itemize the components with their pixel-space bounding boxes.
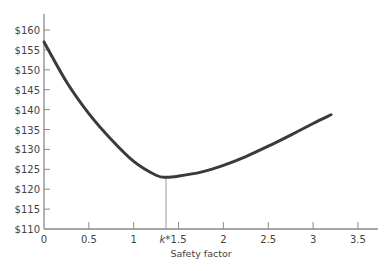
x-axis-title: Safety factor: [170, 248, 231, 259]
y-tick-label: $160: [15, 25, 40, 36]
x-tick-label: 2.5: [260, 234, 276, 245]
x-tick-label: 1: [131, 234, 137, 245]
y-tick-label: $150: [15, 65, 40, 76]
y-tick-label: $125: [15, 164, 40, 175]
y-tick-label: $135: [15, 125, 40, 136]
x-tick-label: 2: [220, 234, 226, 245]
x-tick-label: 3.5: [350, 234, 366, 245]
y-tick-label: $155: [15, 45, 40, 56]
y-tick-label: $145: [15, 85, 40, 96]
safety-factor-cost-chart: $110$115$120$125$130$135$140$145$150$155…: [0, 0, 389, 271]
y-tick-label: $120: [15, 184, 40, 195]
x-tick-label: 3: [310, 234, 316, 245]
x-axis: 00.511.522.533.5k*: [41, 222, 378, 245]
x-tick-label: 0: [41, 234, 47, 245]
y-tick-label: $140: [15, 105, 40, 116]
x-tick-label: 0.5: [81, 234, 97, 245]
k-star-label: k*: [160, 234, 171, 245]
x-tick-label: 1.5: [171, 234, 187, 245]
y-axis: $110$115$120$125$130$135$140$145$150$155…: [15, 14, 50, 235]
cost-curve: [44, 42, 331, 177]
y-tick-label: $110: [15, 224, 40, 235]
y-tick-label: $115: [15, 204, 40, 215]
y-tick-label: $130: [15, 144, 40, 155]
